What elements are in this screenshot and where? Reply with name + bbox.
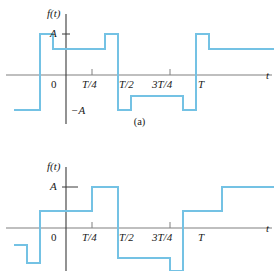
- x-tick-label-T2-a: T/2: [119, 79, 134, 90]
- plot-area-a: [0, 0, 279, 128]
- x-axis-label-b: t: [266, 223, 269, 234]
- waveform-panel-a: f(t) t A −A 0 T/4 T/2 3T/4 T (a): [0, 0, 279, 140]
- x-tick-label-T-a: T: [198, 79, 204, 90]
- y-axis-label-a: f(t): [47, 8, 60, 19]
- waveform-trace-a: [14, 34, 274, 110]
- y-tick-label-negA-a: −A: [71, 105, 85, 116]
- y-axis-label-b: f(t): [47, 161, 60, 172]
- waveform-panel-b: f(t) t A 0 T/4 T/2 3T/4 T: [0, 140, 279, 271]
- y-tick-label-A-a: A: [50, 28, 57, 39]
- x-tick-label-T4-a: T/4: [82, 79, 97, 90]
- x-tick-label-T4-b: T/4: [82, 232, 97, 243]
- x-tick-label-0-a: 0: [51, 79, 57, 90]
- panel-caption-a: (a): [0, 116, 279, 127]
- x-tick-label-T-b: T: [198, 232, 204, 243]
- waveform-trace-b: [14, 187, 274, 271]
- y-tick-label-A-b: A: [50, 181, 57, 192]
- x-tick-label-3T4-b: 3T/4: [152, 232, 172, 243]
- plot-area-b: [0, 140, 279, 271]
- x-tick-label-T2-b: T/2: [119, 232, 134, 243]
- x-tick-label-0-b: 0: [51, 232, 57, 243]
- x-tick-label-3T4-a: 3T/4: [152, 79, 172, 90]
- x-axis-label-a: t: [266, 70, 269, 81]
